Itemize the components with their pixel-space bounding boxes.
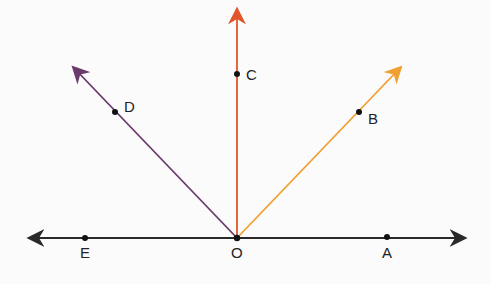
label-b: B: [368, 110, 378, 127]
label-d: D: [124, 98, 135, 115]
point-b: [356, 109, 362, 115]
label-o: O: [231, 244, 243, 261]
ray-od: [74, 68, 237, 238]
label-a: A: [382, 244, 392, 261]
ray-ob: [237, 68, 400, 238]
label-e: E: [80, 244, 90, 261]
point-e: [82, 235, 88, 241]
rays-figure: [0, 0, 491, 284]
point-c: [234, 71, 240, 77]
point-a: [384, 234, 390, 240]
point-d: [112, 109, 118, 115]
geometry-diagram: O E A C D B: [0, 0, 491, 284]
point-o: [234, 235, 240, 241]
label-c: C: [246, 66, 257, 83]
